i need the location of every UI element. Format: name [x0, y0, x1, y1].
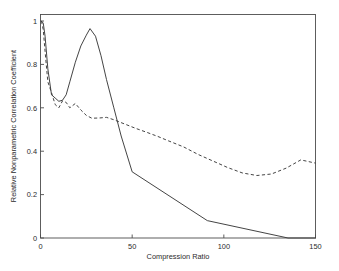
- y-tick-label: 0: [33, 234, 37, 243]
- y-tick-label: 0.8: [27, 60, 37, 69]
- x-tick-label: 150: [309, 242, 321, 251]
- figure-container: 050100150 00.20.40.60.81 Compression Rat…: [0, 0, 339, 271]
- x-tick-label: 0: [38, 242, 42, 251]
- x-tick-label: 100: [218, 242, 230, 251]
- y-tick-label: 0.4: [27, 147, 37, 156]
- relative-correlation-line-chart: 050100150 00.20.40.60.81 Compression Rat…: [0, 0, 339, 271]
- x-axis-label: Compression Ratio: [147, 252, 210, 261]
- y-axis-label: Relative Nonparametric Correlation Coeff…: [9, 50, 18, 202]
- x-tick-label: 50: [128, 242, 136, 251]
- chart-background: [0, 0, 339, 271]
- y-tick-label: 1: [33, 17, 37, 26]
- y-tick-label: 0.2: [27, 190, 37, 199]
- y-tick-label: 0.6: [27, 104, 37, 113]
